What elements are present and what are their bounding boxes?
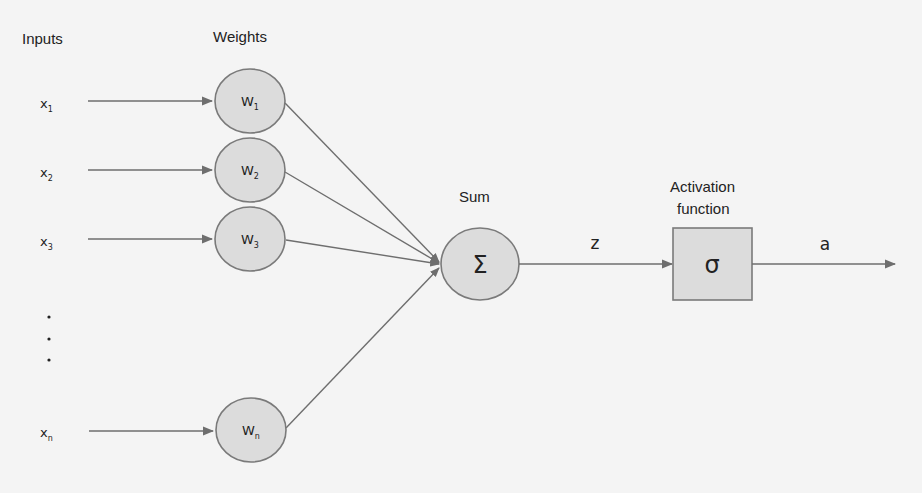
- edge-label-a: a: [820, 234, 830, 254]
- input-x2: x2: [40, 165, 53, 183]
- sigma-activation-symbol: σ: [704, 251, 719, 279]
- svg-text:x1: x1: [40, 96, 53, 114]
- edge-wn-sum: [286, 268, 439, 428]
- activation-heading-line2: function: [677, 200, 730, 217]
- input-x1: x1: [40, 96, 53, 114]
- svg-text:xn: xn: [40, 425, 53, 443]
- weight-node-w1: W1: [215, 69, 285, 133]
- inputs-heading: Inputs: [22, 30, 63, 47]
- sigma-sum-symbol: Σ: [472, 251, 487, 279]
- edge-w2-sum: [285, 172, 439, 263]
- svg-text:x3: x3: [40, 234, 53, 252]
- activation-heading-line1: Activation: [670, 178, 735, 195]
- weight-node-w2: W2: [215, 138, 285, 202]
- edge-w1-sum: [285, 103, 439, 262]
- weight-node-w3: W3: [215, 207, 285, 271]
- weights-heading: Weights: [213, 28, 267, 45]
- edge-w3-sum: [286, 240, 439, 264]
- weight-node-wn: Wn: [216, 398, 286, 462]
- svg-text:x2: x2: [40, 165, 53, 183]
- input-x3: x3: [40, 234, 53, 252]
- activation-node: σ: [673, 228, 752, 300]
- perceptron-diagram: Inputs Weights Sum Activation function x…: [0, 0, 922, 493]
- sum-node: Σ: [441, 228, 519, 300]
- ellipsis: [47, 315, 50, 361]
- input-xn: xn: [40, 425, 53, 443]
- edge-label-z: z: [591, 233, 600, 253]
- sum-heading: Sum: [459, 188, 490, 205]
